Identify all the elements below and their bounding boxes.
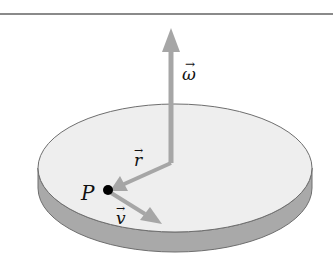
point-p-label: P (80, 181, 95, 205)
omega-arrow-accent: → (185, 57, 195, 71)
disk-top (38, 104, 312, 232)
r-arrow-accent: → (134, 144, 143, 157)
v-arrow-accent: → (116, 202, 125, 215)
rotating-disk-diagram: ω → r → P v → (0, 0, 333, 274)
point-p-marker (103, 185, 113, 195)
